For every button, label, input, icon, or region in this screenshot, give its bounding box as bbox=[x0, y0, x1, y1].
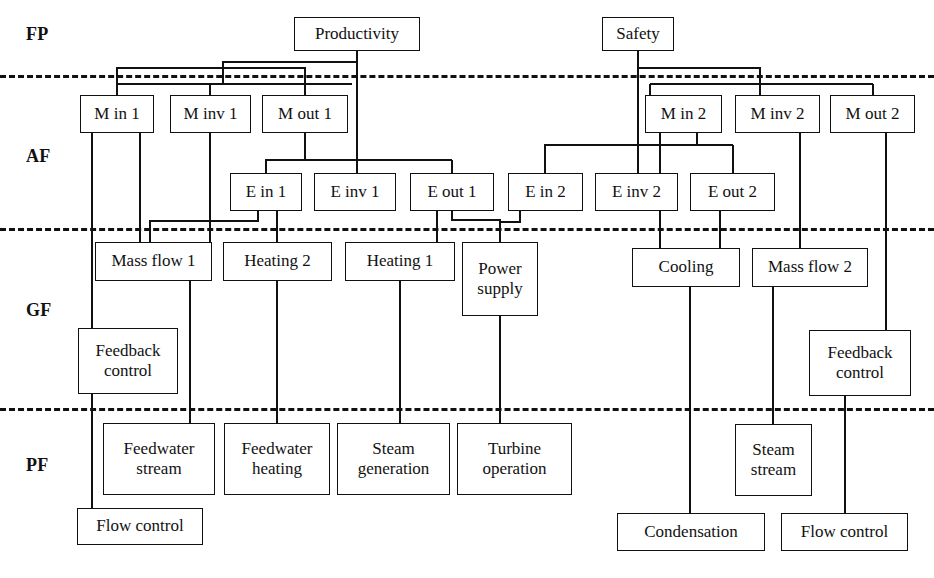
node-steam-generation[interactable]: Steam generation bbox=[337, 423, 450, 495]
node-productivity[interactable]: Productivity bbox=[294, 17, 420, 51]
node-mass-flow-1[interactable]: Mass flow 1 bbox=[95, 242, 212, 281]
node-safety[interactable]: Safety bbox=[602, 17, 674, 51]
node-m-out-1[interactable]: M out 1 bbox=[262, 95, 348, 133]
tier-separator-fp-af bbox=[0, 75, 934, 78]
diagram-canvas: FP AF GF PF bbox=[0, 0, 934, 578]
node-mass-flow-2[interactable]: Mass flow 2 bbox=[752, 248, 868, 287]
node-m-inv-2[interactable]: M inv 2 bbox=[735, 95, 820, 133]
node-e-in-1[interactable]: E in 1 bbox=[230, 173, 302, 211]
node-condensation[interactable]: Condensation bbox=[617, 513, 765, 551]
tier-separator-gf-pf bbox=[0, 408, 934, 411]
node-heating-2[interactable]: Heating 2 bbox=[223, 242, 332, 281]
node-power-supply[interactable]: Power supply bbox=[462, 242, 538, 316]
node-m-in-2[interactable]: M in 2 bbox=[645, 95, 722, 133]
tier-label-gf: GF bbox=[26, 300, 52, 321]
node-m-out-2[interactable]: M out 2 bbox=[830, 95, 915, 133]
tier-label-af: AF bbox=[26, 146, 51, 167]
node-turbine-operation[interactable]: Turbine operation bbox=[457, 423, 572, 495]
node-steam-stream[interactable]: Steam stream bbox=[735, 424, 812, 496]
node-feedwater-stream[interactable]: Feedwater stream bbox=[103, 423, 215, 495]
node-m-inv-1[interactable]: M inv 1 bbox=[170, 95, 251, 133]
node-e-out-1[interactable]: E out 1 bbox=[410, 173, 494, 211]
node-heating-1[interactable]: Heating 1 bbox=[345, 242, 455, 281]
node-feedback-control-2[interactable]: Feedback control bbox=[809, 330, 911, 396]
node-cooling[interactable]: Cooling bbox=[632, 248, 740, 287]
node-m-in-1[interactable]: M in 1 bbox=[80, 95, 154, 133]
tier-separator-af-gf bbox=[0, 228, 934, 231]
node-feedwater-heating[interactable]: Feedwater heating bbox=[224, 423, 330, 495]
tier-label-pf: PF bbox=[26, 455, 49, 476]
node-e-in-2[interactable]: E in 2 bbox=[508, 173, 583, 211]
node-feedback-control-1[interactable]: Feedback control bbox=[78, 328, 178, 394]
node-flow-control-2[interactable]: Flow control bbox=[781, 513, 908, 551]
node-e-inv-2[interactable]: E inv 2 bbox=[595, 173, 678, 211]
tier-label-fp: FP bbox=[26, 24, 49, 45]
node-flow-control-1[interactable]: Flow control bbox=[77, 508, 203, 545]
node-e-out-2[interactable]: E out 2 bbox=[690, 173, 775, 211]
node-e-inv-1[interactable]: E inv 1 bbox=[314, 173, 396, 211]
